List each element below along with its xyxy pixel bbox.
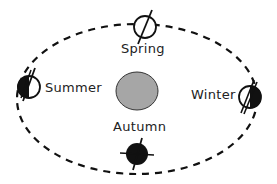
earth-spring [134,10,156,44]
label-winter: Winter [191,87,236,102]
sun [116,72,158,110]
label-summer: Summer [45,80,102,95]
earth-summer [17,68,40,101]
earth-autumn [120,138,154,170]
label-spring: Spring [121,41,165,56]
earth-winter [239,80,261,114]
label-autumn: Autumn [113,119,166,134]
